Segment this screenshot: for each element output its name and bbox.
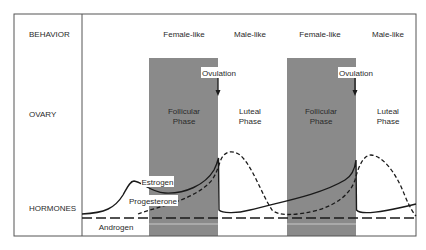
row-label-ovary: OVARY [29, 110, 57, 119]
luteal-phase-label-2b: Phase [377, 117, 400, 126]
ovulation-label-2: Ovulation [339, 69, 373, 78]
estrogen-label: Estrogen [141, 178, 173, 187]
luteal-phase-label-1a: Luteal [239, 107, 261, 116]
behavior-label-4: Male-like [372, 30, 405, 39]
behavior-label-2: Male-like [234, 30, 267, 39]
follicular-band-1 [149, 58, 218, 236]
behavior-label-3: Female-like [299, 30, 341, 39]
luteal-phase-label-1b: Phase [239, 117, 262, 126]
follicular-phase-label-1a: Follicular [168, 107, 200, 116]
estrous-cycle-diagram: BEHAVIOR OVARY HORMONES Female-like Male… [0, 0, 426, 250]
follicular-phase-label-2b: Phase [310, 117, 333, 126]
androgen-label: Androgen [99, 223, 134, 232]
follicular-phase-label-2a: Follicular [305, 107, 337, 116]
row-label-behavior: BEHAVIOR [29, 30, 70, 39]
follicular-phase-label-1b: Phase [173, 117, 196, 126]
luteal-phase-label-2a: Luteal [377, 107, 399, 116]
ovulation-label-1: Ovulation [202, 69, 236, 78]
behavior-label-1: Female-like [163, 30, 205, 39]
row-label-hormones: HORMONES [29, 204, 76, 213]
progesterone-label: Progesterone [129, 197, 178, 206]
